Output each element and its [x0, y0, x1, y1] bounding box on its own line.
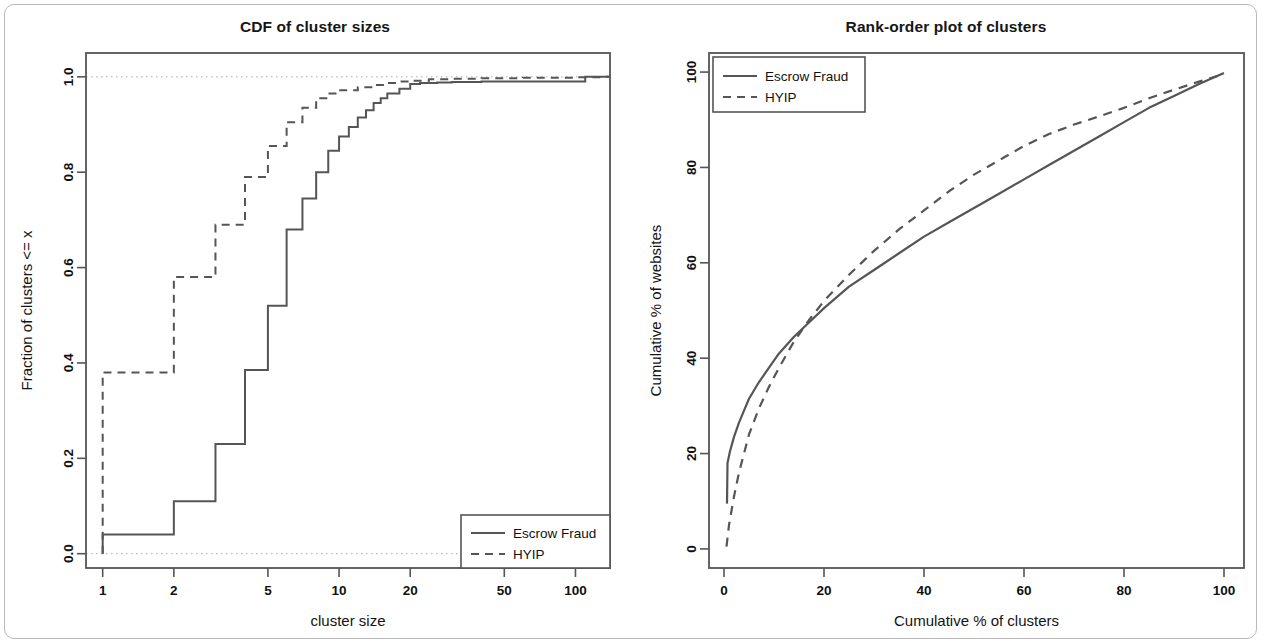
cdf-xtick-label-100: 100	[564, 583, 587, 598]
rank-legend-label-1: HYIP	[765, 90, 797, 105]
figure-container: CDF of cluster sizes 1251020501000.00.20…	[0, 0, 1261, 643]
cdf-ytick-label-0: 0.0	[61, 544, 76, 563]
cdf-ytick-label-5: 1.0	[61, 67, 76, 86]
rank-xtick-label-40: 40	[916, 583, 931, 598]
cdf-xtick-label-20: 20	[403, 583, 418, 598]
rank-xaxis-label: Cumulative % of clusters	[894, 612, 1059, 629]
cdf-plot-svg: 1251020501000.00.20.40.60.81.0cluster si…	[0, 0, 630, 643]
cdf-xtick-label-2: 2	[170, 583, 178, 598]
rank-ytick-label-0: 0	[684, 545, 699, 553]
rank-ytick-label-100: 100	[684, 61, 699, 84]
cdf-legend-label-0: Escrow Fraud	[513, 526, 596, 541]
cdf-legend-label-1: HYIP	[513, 547, 545, 562]
rank-xtick-label-20: 20	[816, 583, 831, 598]
rank-ytick-label-40: 40	[684, 351, 699, 366]
cdf-xaxis-label: cluster size	[310, 612, 385, 629]
cdf-ytick-label-2: 0.4	[61, 353, 76, 372]
cdf-xtick-label-1: 1	[99, 583, 107, 598]
rank-order-plot-svg: 020406080100020406080100Cumulative % of …	[631, 0, 1261, 643]
rank-xtick-label-80: 80	[1116, 583, 1131, 598]
cdf-series-hyip	[103, 77, 610, 554]
rank-plot-box	[709, 53, 1244, 568]
cdf-yaxis-label: Fraction of clusters <= x	[18, 230, 35, 391]
cdf-xtick-label-10: 10	[332, 583, 347, 598]
rank-series-escrow-fraud	[727, 73, 1224, 504]
rank-xtick-label-0: 0	[720, 583, 728, 598]
rank-ytick-label-60: 60	[684, 255, 699, 270]
cdf-xtick-label-5: 5	[264, 583, 272, 598]
cdf-ytick-label-1: 0.2	[61, 449, 76, 468]
cdf-series-escrow-fraud	[103, 77, 610, 554]
rank-xtick-label-100: 100	[1213, 583, 1236, 598]
rank-series-hyip	[727, 74, 1225, 547]
rank-legend-label-0: Escrow Fraud	[765, 69, 848, 84]
rank-yaxis-label: Cumulative % of websites	[647, 225, 664, 397]
cdf-xtick-label-50: 50	[497, 583, 512, 598]
rank-ytick-label-80: 80	[684, 160, 699, 175]
rank-order-panel: Rank-order plot of clusters 020406080100…	[631, 0, 1261, 643]
cdf-ytick-label-4: 0.8	[61, 162, 76, 181]
cdf-ytick-label-3: 0.6	[61, 258, 76, 277]
rank-ytick-label-20: 20	[684, 446, 699, 461]
rank-xtick-label-60: 60	[1016, 583, 1031, 598]
cdf-panel: CDF of cluster sizes 1251020501000.00.20…	[0, 0, 630, 643]
